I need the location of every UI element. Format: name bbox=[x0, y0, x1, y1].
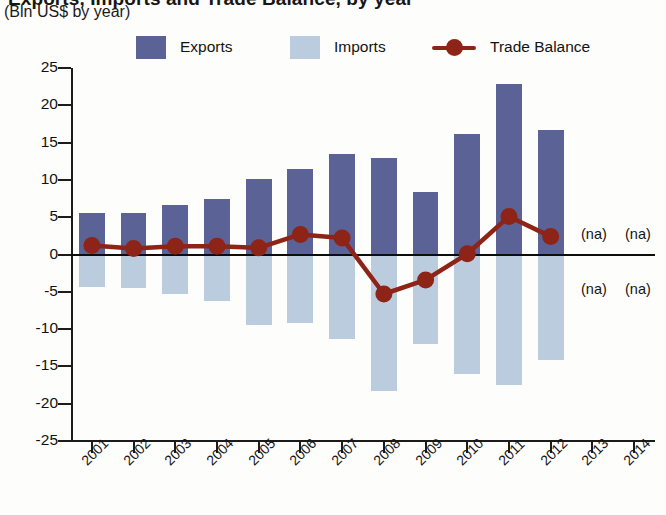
na-label-exports-2013: (na) bbox=[581, 226, 607, 242]
y-axis-tick bbox=[58, 67, 71, 69]
y-axis-tick bbox=[58, 440, 71, 442]
chart-root: Exports, Imports and Trade Balance, by y… bbox=[0, 0, 666, 515]
bar-exports-2009 bbox=[413, 192, 439, 255]
bar-imports-2003 bbox=[162, 255, 188, 295]
bar-exports-2004 bbox=[204, 199, 230, 255]
bar-imports-2008 bbox=[371, 255, 397, 392]
y-axis-tick-label: 20 bbox=[6, 95, 58, 113]
y-axis-tick-label: -10 bbox=[6, 319, 58, 337]
y-axis-tick-label: 25 bbox=[6, 58, 58, 76]
bar-exports-2008 bbox=[371, 158, 397, 255]
bar-imports-2006 bbox=[287, 255, 313, 324]
y-axis-tick bbox=[58, 365, 71, 367]
bar-imports-2005 bbox=[246, 255, 272, 325]
y-axis-tick bbox=[58, 216, 71, 218]
bar-exports-2010 bbox=[454, 134, 480, 254]
y-axis-tick-label: -5 bbox=[6, 282, 58, 300]
plot-area: 2520151050-5-10-15-20-252001200220032004… bbox=[0, 0, 666, 515]
bar-imports-2011 bbox=[496, 255, 522, 386]
y-axis-tick-label: 0 bbox=[6, 245, 58, 263]
na-label-imports-2013: (na) bbox=[581, 281, 607, 297]
y-axis-tick bbox=[58, 254, 71, 256]
na-label-imports-2014: (na) bbox=[625, 281, 651, 297]
y-axis-tick bbox=[58, 142, 71, 144]
y-axis-tick-label: -15 bbox=[6, 356, 58, 374]
bar-exports-2011 bbox=[496, 84, 522, 254]
zero-baseline bbox=[71, 254, 655, 257]
y-axis-tick bbox=[58, 104, 71, 106]
bar-imports-2004 bbox=[204, 255, 230, 302]
y-axis-tick bbox=[58, 403, 71, 405]
bar-imports-2012 bbox=[538, 255, 564, 360]
y-axis-tick-label: 10 bbox=[6, 170, 58, 188]
y-axis-tick-label: 15 bbox=[6, 133, 58, 151]
y-axis-tick-label: 5 bbox=[6, 207, 58, 225]
bar-exports-2006 bbox=[287, 169, 313, 255]
bar-exports-2003 bbox=[162, 205, 188, 254]
y-axis-tick bbox=[58, 328, 71, 330]
bar-imports-2010 bbox=[454, 255, 480, 374]
bar-imports-2009 bbox=[413, 255, 439, 345]
bar-imports-2001 bbox=[79, 255, 105, 287]
bar-exports-2002 bbox=[121, 213, 147, 254]
bar-exports-2012 bbox=[538, 130, 564, 255]
bar-exports-2007 bbox=[329, 154, 355, 255]
y-axis-tick bbox=[58, 179, 71, 181]
y-axis-tick-label: -20 bbox=[6, 394, 58, 412]
y-axis-tick bbox=[58, 291, 71, 293]
bar-imports-2002 bbox=[121, 255, 147, 289]
x-axis-line bbox=[71, 440, 655, 442]
bar-exports-2005 bbox=[246, 179, 272, 254]
na-label-exports-2014: (na) bbox=[625, 226, 651, 242]
bar-exports-2001 bbox=[79, 213, 105, 254]
bar-imports-2007 bbox=[329, 255, 355, 339]
y-axis-tick-label: -25 bbox=[6, 431, 58, 449]
